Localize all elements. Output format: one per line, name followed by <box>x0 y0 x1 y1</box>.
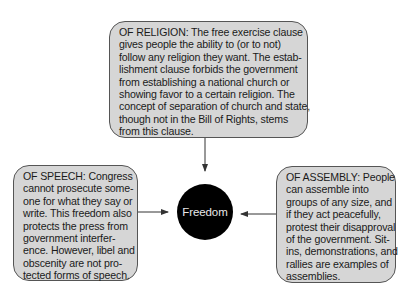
religion-line: though not in the Bill of Rights, stems <box>119 113 301 125</box>
assembly-line: of the government. Sit- <box>286 233 391 245</box>
speech-line: OF SPEECH: Congress <box>23 170 133 182</box>
freedom-circle: Freedom <box>177 184 233 240</box>
religion-line: follow any religion they want. The estab… <box>119 51 301 63</box>
religion-line: from establishing a national church or <box>119 76 301 88</box>
religion-line: lishment clause forbids the government <box>119 63 301 75</box>
speech-line: obscenity are not pro- <box>23 257 133 269</box>
speech-line: cannot prosecute some- <box>23 182 133 194</box>
religion-line: from this clause. <box>119 125 301 137</box>
religion-line: concept of separation of church and stat… <box>119 100 301 112</box>
religion-text: OF RELIGION: The free exercise clause gi… <box>119 26 301 138</box>
assembly-text: OF ASSEMBLY: People can assemble into gr… <box>286 171 391 283</box>
speech-line: government interfer- <box>23 232 133 244</box>
speech-line: tected forms of speech. <box>23 269 133 281</box>
assembly-line: groups of any size, and <box>286 196 391 208</box>
religion-line: OF RELIGION: The free exercise clause <box>119 26 301 38</box>
assembly-box: OF ASSEMBLY: People can assemble into gr… <box>276 166 396 283</box>
speech-line: one for what they say or <box>23 195 133 207</box>
assembly-line: if they act peacefully, <box>286 208 391 220</box>
assembly-line: protest their disapproval <box>286 221 391 233</box>
religion-line: gives people the ability to (or to not) <box>119 38 301 50</box>
speech-line: protects the press from <box>23 220 133 232</box>
speech-line: write. This freedom also <box>23 207 133 219</box>
assembly-line: rallies are examples of <box>286 258 391 270</box>
assembly-line: can assemble into <box>286 183 391 195</box>
speech-box: OF SPEECH: Congress cannot prosecute som… <box>13 165 138 281</box>
assembly-line: ins, demonstrations, and <box>286 245 391 257</box>
freedom-label: Freedom <box>182 206 227 218</box>
speech-line: ence. However, libel and <box>23 244 133 256</box>
religion-line: showing favor to a certain religion. The <box>119 88 301 100</box>
religion-box: OF RELIGION: The free exercise clause gi… <box>109 21 308 138</box>
speech-text: OF SPEECH: Congress cannot prosecute som… <box>23 170 133 282</box>
assembly-line: OF ASSEMBLY: People <box>286 171 391 183</box>
assembly-line: assemblies. <box>286 270 391 282</box>
